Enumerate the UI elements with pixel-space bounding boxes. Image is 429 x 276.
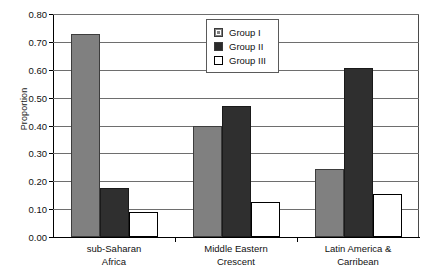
- legend-swatch-group-2-icon: [214, 42, 223, 51]
- bar: [71, 34, 100, 237]
- y-tick-mark: [49, 209, 53, 210]
- bar-chart: Proportion 0.000.100.200.300.400.500.600…: [0, 0, 429, 276]
- legend-label: Group III: [229, 55, 266, 66]
- bar: [222, 106, 251, 237]
- legend-item: Group II: [214, 39, 266, 53]
- bar: [315, 169, 344, 237]
- x-category-label: sub-SaharanAfrica: [53, 243, 175, 268]
- x-category-label-line: Crescent: [175, 256, 297, 269]
- bar: [129, 212, 158, 237]
- y-tick-label: 0.00: [7, 232, 47, 243]
- x-category-label-line: Middle Eastern: [204, 243, 267, 254]
- x-tick-mark: [175, 237, 176, 242]
- x-category-label: Latin America &Carribean: [297, 243, 419, 268]
- legend-item: Group III: [214, 53, 266, 67]
- x-category-label-line: Carribean: [297, 256, 419, 269]
- x-tick-mark: [297, 237, 298, 242]
- legend: Group I Group II Group III: [206, 19, 279, 73]
- y-tick-label: 0.70: [7, 36, 47, 47]
- legend-swatch-group-1-icon: [214, 28, 223, 37]
- legend-label: Group II: [229, 41, 263, 52]
- legend-swatch-group-3-icon: [214, 56, 223, 65]
- y-tick-label: 0.40: [7, 120, 47, 131]
- y-tick-mark: [49, 70, 53, 71]
- x-category-label-line: Latin America &: [325, 243, 392, 254]
- y-tick-label: 0.50: [7, 92, 47, 103]
- bar: [373, 194, 402, 237]
- legend-label: Group I: [229, 27, 261, 38]
- y-tick-mark: [49, 98, 53, 99]
- bar: [100, 188, 129, 237]
- bar: [251, 202, 280, 237]
- gridline: [53, 14, 419, 15]
- y-tick-mark: [49, 153, 53, 154]
- y-tick-mark: [49, 237, 53, 238]
- y-tick-mark: [49, 42, 53, 43]
- y-tick-label: 0.20: [7, 176, 47, 187]
- bar: [193, 126, 222, 238]
- y-tick-mark: [49, 181, 53, 182]
- y-tick-mark: [49, 126, 53, 127]
- y-tick-label: 0.80: [7, 9, 47, 20]
- bar: [344, 68, 373, 237]
- legend-item: Group I: [214, 25, 266, 39]
- y-tick-label: 0.60: [7, 64, 47, 75]
- x-category-label-line: Africa: [53, 256, 175, 269]
- x-category-label-line: sub-Saharan: [87, 243, 141, 254]
- y-tick-label: 0.30: [7, 148, 47, 159]
- y-tick-mark: [49, 14, 53, 15]
- x-category-label: Middle EasternCrescent: [175, 243, 297, 268]
- y-tick-label: 0.10: [7, 204, 47, 215]
